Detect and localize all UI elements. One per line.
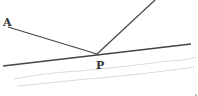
reflected-ray xyxy=(97,0,155,54)
incident-ray xyxy=(8,27,97,54)
diagram-svg xyxy=(0,0,198,96)
mirror-texture-line-1 xyxy=(14,57,196,79)
point-p-label: P xyxy=(96,60,104,71)
reflection-diagram: A P xyxy=(0,0,198,96)
point-a-label: A xyxy=(3,17,12,28)
mirror-texture-line-2 xyxy=(17,67,194,86)
corner-dot xyxy=(195,94,196,95)
